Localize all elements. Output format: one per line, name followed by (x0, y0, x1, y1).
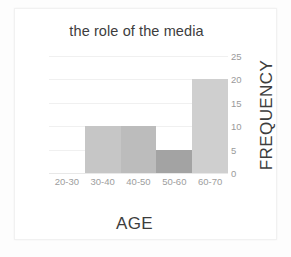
y-axis-title: FREQUENCY (247, 56, 287, 173)
bar-30-40[interactable] (85, 126, 121, 173)
plot-area (49, 56, 228, 173)
bar-50-60[interactable] (156, 150, 192, 173)
chart-title: the role of the media (15, 23, 276, 39)
x-tick-label: 50-60 (156, 176, 192, 194)
x-tick-label: 20-30 (49, 176, 85, 194)
y-axis-title-label: FREQUENCY (257, 59, 277, 169)
x-axis-ticks: 20-3030-4040-5050-6060-70 (49, 176, 228, 194)
x-tick-label: 60-70 (192, 176, 228, 194)
x-tick-label: 30-40 (85, 176, 121, 194)
gridline (49, 56, 228, 57)
bar-60-70[interactable] (192, 79, 228, 173)
gridline (49, 173, 228, 174)
bar-40-50[interactable] (121, 126, 157, 173)
chart-frame: the role of the media 0510152025 FREQUEN… (14, 8, 277, 240)
x-axis-title: AGE (15, 214, 276, 234)
x-tick-label: 40-50 (121, 176, 157, 194)
